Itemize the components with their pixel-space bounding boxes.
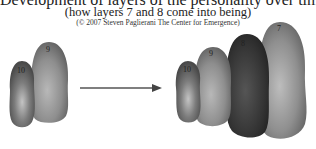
layer-9-label: 9 xyxy=(46,45,50,54)
layer-10-label: 10 xyxy=(17,66,25,75)
layer-9-oval xyxy=(30,42,68,123)
layers-illustration: 9 10 7 8 9 10 xyxy=(0,0,316,149)
layer-8-label: 8 xyxy=(241,39,245,48)
layer-9-label: 9 xyxy=(209,49,213,58)
layer-10-label: 10 xyxy=(183,65,191,74)
layer-7-label: 7 xyxy=(277,24,281,33)
after-layers: 7 8 9 10 xyxy=(176,22,307,139)
right-arrow-icon xyxy=(80,84,162,92)
before-layers: 9 10 xyxy=(10,42,69,127)
diagram-canvas: Development of layers of the personality… xyxy=(0,0,316,149)
layer-9-oval xyxy=(195,47,231,126)
layer-8-oval xyxy=(226,34,269,138)
